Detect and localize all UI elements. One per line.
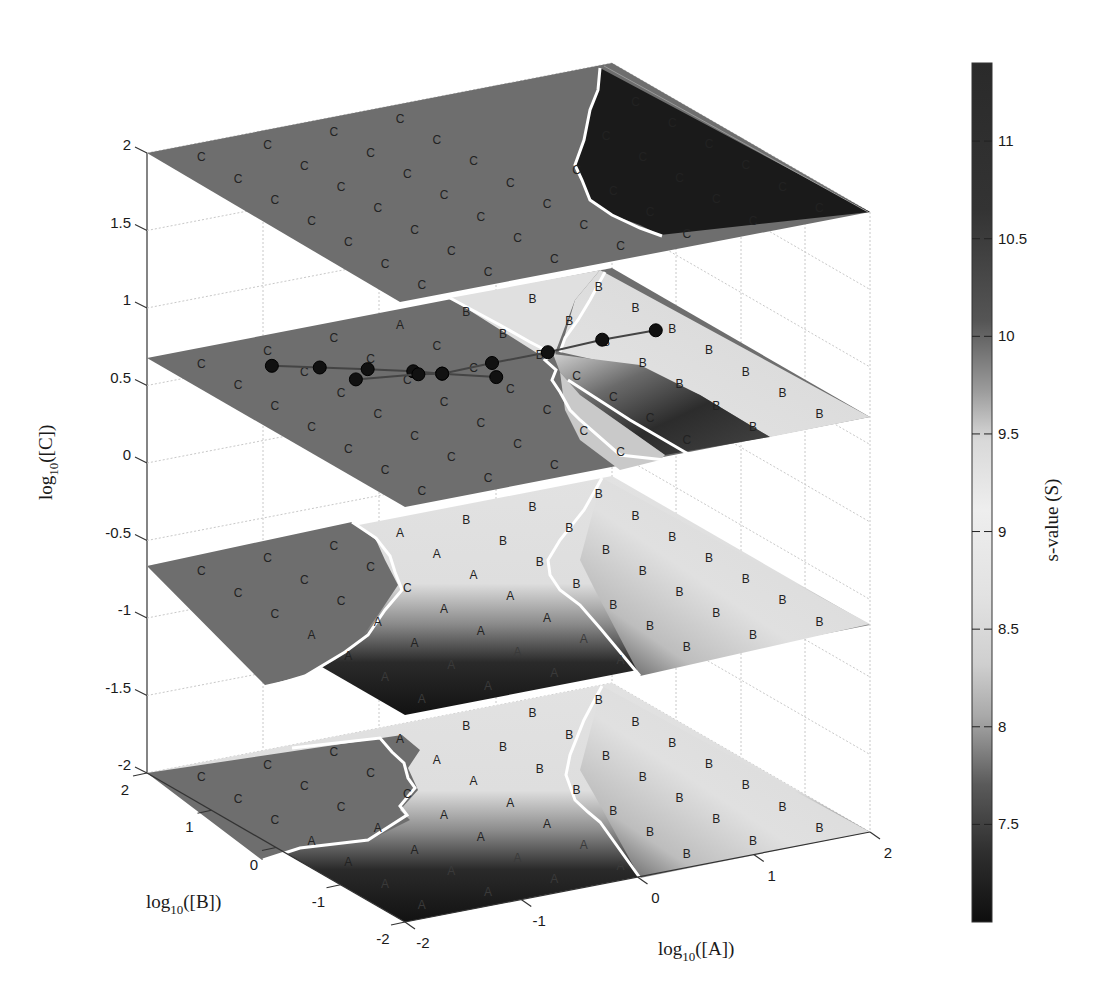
region-label-C: C bbox=[749, 214, 758, 228]
region-label-C: C bbox=[778, 180, 787, 194]
region-label-C: C bbox=[447, 244, 456, 258]
region-label-B: B bbox=[595, 487, 603, 501]
region-label-B: B bbox=[462, 719, 470, 733]
colorbar-label: s-value (S) bbox=[1041, 479, 1063, 562]
region-label-A: A bbox=[308, 628, 316, 642]
region-label-C: C bbox=[683, 433, 692, 447]
region-label-A: A bbox=[484, 679, 492, 693]
figure: CCCCCCCCCCCCCCCCCCCCCCCCCCCCCCCCCCCCCCCC… bbox=[0, 0, 1108, 1003]
region-label-B: B bbox=[712, 606, 720, 620]
trajectory-marker bbox=[541, 346, 554, 359]
region-label-A: A bbox=[447, 658, 455, 672]
a-tick-label: -1 bbox=[533, 912, 546, 929]
region-label-C: C bbox=[417, 484, 426, 498]
region-label-B: B bbox=[683, 640, 691, 654]
region-label-C: C bbox=[381, 257, 390, 271]
z-tick-mark bbox=[135, 302, 147, 308]
region-label-B: B bbox=[573, 577, 581, 591]
region-label-C: C bbox=[815, 201, 824, 215]
z-tick-label: 2 bbox=[123, 136, 131, 153]
colorbar-tick-label: 9 bbox=[998, 523, 1006, 540]
region-label-C: C bbox=[366, 766, 375, 780]
region-label-C: C bbox=[513, 231, 522, 245]
trajectory-marker bbox=[265, 359, 278, 372]
region-label-A: A bbox=[470, 774, 478, 788]
region-label-C: C bbox=[366, 560, 375, 574]
region-label-A: A bbox=[506, 796, 514, 810]
region-label-C: C bbox=[234, 172, 243, 186]
region-label-C: C bbox=[646, 205, 655, 219]
region-label-C: C bbox=[197, 357, 206, 371]
region-label-B: B bbox=[779, 593, 787, 607]
region-label-C: C bbox=[403, 787, 412, 801]
region-label-A: A bbox=[396, 732, 404, 746]
region-label-C: C bbox=[329, 745, 338, 759]
region-label-C: C bbox=[300, 573, 309, 587]
region-label-A: A bbox=[484, 885, 492, 899]
region-label-B: B bbox=[565, 314, 573, 328]
a-tick-mark bbox=[638, 877, 648, 884]
region-label-A: A bbox=[617, 859, 625, 873]
z-tick-label: 1 bbox=[123, 291, 131, 308]
colorbar-tick-label: 8.5 bbox=[998, 620, 1019, 637]
z-tick-label: 0 bbox=[123, 446, 131, 463]
region-label-B: B bbox=[742, 778, 750, 792]
region-label-A: A bbox=[433, 547, 441, 561]
b-axis-label: log10([B]) bbox=[146, 891, 221, 917]
region-label-C: C bbox=[572, 369, 581, 383]
region-label-C: C bbox=[572, 163, 581, 177]
region-label-B: B bbox=[668, 322, 676, 336]
region-label-C: C bbox=[263, 758, 272, 772]
colorbar-tick-label: 10.5 bbox=[998, 230, 1027, 247]
region-label-B: B bbox=[712, 399, 720, 413]
trajectory-marker bbox=[361, 363, 374, 376]
region-label-B: B bbox=[676, 377, 684, 391]
region-label-A: A bbox=[418, 898, 426, 912]
region-label-B: B bbox=[529, 706, 537, 720]
a-tick-mark bbox=[405, 922, 415, 929]
region-label-C: C bbox=[197, 770, 206, 784]
z-tick-mark bbox=[135, 690, 147, 696]
region-label-B: B bbox=[529, 500, 537, 514]
z-tick-label: 1.5 bbox=[110, 214, 131, 231]
region-label-B: B bbox=[742, 572, 750, 586]
region-label-B: B bbox=[749, 834, 757, 848]
b-tick-label: 1 bbox=[185, 818, 193, 835]
colorbar: 1110.5109.598.587.5 s-value (S) bbox=[972, 63, 1063, 922]
region-label-B: B bbox=[646, 825, 654, 839]
region-label-C: C bbox=[337, 800, 346, 814]
region-label-A: A bbox=[344, 649, 352, 663]
region-label-C: C bbox=[234, 792, 243, 806]
region-label-C: C bbox=[197, 150, 206, 164]
region-label-B: B bbox=[749, 420, 757, 434]
region-label-C: C bbox=[616, 239, 625, 253]
z-tick-mark bbox=[135, 147, 147, 153]
colorbar-tick-label: 8 bbox=[998, 718, 1006, 735]
region-label-C: C bbox=[543, 403, 552, 417]
region-label-C: C bbox=[270, 399, 279, 413]
z-tick-label: 0.5 bbox=[110, 369, 131, 386]
b-tick-mark bbox=[391, 922, 405, 925]
region-label-C: C bbox=[705, 137, 714, 151]
region-label-C: C bbox=[484, 471, 493, 485]
region-label-C: C bbox=[410, 223, 419, 237]
region-label-A: A bbox=[580, 632, 588, 646]
colorbar-tick-label: 7.5 bbox=[998, 815, 1019, 832]
b-tick-mark bbox=[327, 885, 341, 888]
region-label-A: A bbox=[550, 666, 558, 680]
region-label-A: A bbox=[411, 843, 419, 857]
region-label-C: C bbox=[580, 218, 589, 232]
region-label-A: A bbox=[543, 817, 551, 831]
a-tick-mark bbox=[870, 832, 880, 839]
region-label-B: B bbox=[462, 513, 470, 527]
region-label-A: A bbox=[440, 602, 448, 616]
a-tick-mark bbox=[754, 855, 764, 862]
region-label-A: A bbox=[580, 838, 588, 852]
region-label-A: A bbox=[440, 808, 448, 822]
region-label-C: C bbox=[432, 133, 441, 147]
region-label-B: B bbox=[705, 343, 713, 357]
region-label-B: B bbox=[536, 555, 544, 569]
region-label-B: B bbox=[639, 356, 647, 370]
region-label-C: C bbox=[638, 150, 647, 164]
b-tick-mark bbox=[133, 773, 147, 776]
